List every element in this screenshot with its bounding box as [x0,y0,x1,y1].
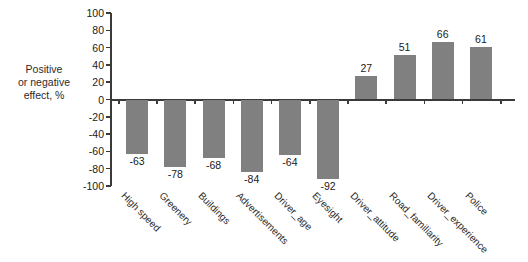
bar-value-label: -64 [270,156,310,168]
y-axis-title-line-1: Positive [4,63,84,76]
y-axis-tick-label: 60 [92,42,104,54]
bar-value-label: 61 [461,33,501,45]
bar-value-label: 27 [346,62,386,74]
bar[interactable] [432,42,454,99]
y-axis-tick-label: 20 [92,76,104,88]
x-axis-tick [118,99,120,104]
bar[interactable] [355,76,377,99]
x-axis-category-label: High speed [119,190,163,234]
bar-value-label: -68 [194,159,234,171]
x-axis-tick [156,99,158,104]
y-axis-tick-label: 100 [86,7,104,19]
bar[interactable] [470,47,492,100]
y-axis-tick [106,81,111,83]
bar-value-label: -63 [117,155,157,167]
x-axis-tick [347,99,349,104]
chart-plot-area: 100806040200-20-40-60-80-100 -63-78-68-8… [110,13,515,186]
bar-value-label: 51 [385,41,425,53]
y-axis-title-line-3: effect, % [4,89,84,102]
x-axis-tick [194,99,196,104]
x-axis-category-label: Eyesight [310,190,345,225]
y-axis-tick [106,99,111,101]
y-axis-tick [106,12,111,14]
y-axis-tick-label: -100 [83,180,104,192]
y-axis-tick [106,47,111,49]
bar-value-label: 66 [423,28,463,40]
bar[interactable] [279,100,301,155]
bar[interactable] [317,100,339,180]
y-axis-title: Positive or negative effect, % [4,63,84,102]
y-axis-tick-label: -40 [89,128,104,140]
x-axis-category-label: Buildings [196,190,232,226]
y-axis-tick [106,185,111,187]
y-axis-tick-label: -20 [89,111,104,123]
x-axis-tick [309,99,311,104]
bar[interactable] [394,55,416,99]
x-axis-tick [424,99,426,104]
y-axis-tick [106,30,111,32]
y-axis-tick-label: -60 [89,145,104,157]
y-axis-tick-label: -80 [89,163,104,175]
x-axis-tick [462,99,464,104]
x-axis-tick [233,99,235,104]
y-axis-tick [106,116,111,118]
bar[interactable] [164,100,186,167]
y-axis-title-line-2: or negative [4,76,84,89]
y-axis-tick [106,151,111,153]
y-axis-tick-label: 40 [92,59,104,71]
bar-value-label: -78 [155,168,195,180]
bar-value-label: -84 [232,173,272,185]
x-axis-tick [271,99,273,104]
y-axis-tick [106,64,111,66]
x-axis-category-label: Police [463,190,490,217]
bar[interactable] [203,100,225,159]
x-axis-tick [385,99,387,104]
y-axis-tick-label: 0 [98,94,104,106]
bar-value-label: -92 [308,180,348,192]
y-axis-tick [106,133,111,135]
y-axis-tick [106,168,111,170]
y-axis-tick-label: 80 [92,24,104,36]
bar[interactable] [241,100,263,173]
x-axis-tick [500,99,502,104]
x-axis-category-label: Greenery [158,190,195,227]
bar[interactable] [126,100,148,154]
